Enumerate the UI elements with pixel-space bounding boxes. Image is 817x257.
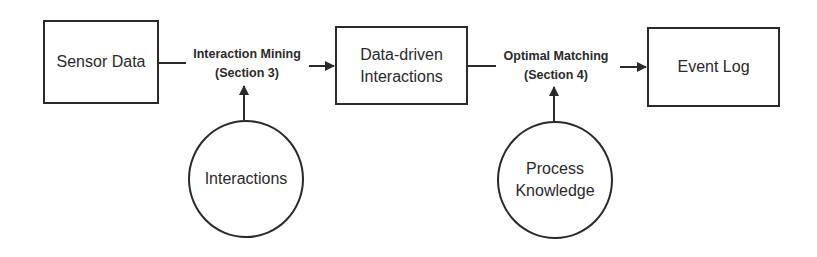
- node-data-driven-interactions: Data-driven Interactions: [335, 26, 468, 105]
- node-process-knowledge-line1: Process: [515, 158, 594, 180]
- node-data-driven-line2: Interactions: [360, 66, 443, 88]
- node-interactions: Interactions: [188, 120, 304, 238]
- edge-label-interaction-mining-line2: (Section 3): [193, 64, 301, 83]
- edge-label-optimal-matching-line1: Optimal Matching: [504, 47, 609, 66]
- node-data-driven-line1: Data-driven: [360, 44, 443, 66]
- node-process-knowledge: Process Knowledge: [497, 121, 613, 239]
- node-interactions-label: Interactions: [205, 168, 288, 190]
- edge-label-interaction-mining-line1: Interaction Mining: [193, 45, 301, 64]
- edge-label-optimal-matching: Optimal Matching (Section 4): [504, 47, 609, 85]
- edge-label-interaction-mining: Interaction Mining (Section 3): [193, 45, 301, 83]
- node-sensor-data-label: Sensor Data: [57, 51, 146, 73]
- node-event-log: Event Log: [647, 27, 780, 107]
- edge-label-optimal-matching-line2: (Section 4): [504, 66, 609, 85]
- node-sensor-data: Sensor Data: [43, 20, 159, 104]
- node-event-log-label: Event Log: [677, 56, 749, 78]
- node-process-knowledge-line2: Knowledge: [515, 180, 594, 202]
